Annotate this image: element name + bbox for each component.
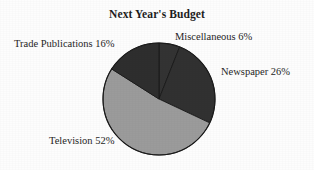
- slice-label-trade-publications: Trade Publications 16%: [14, 38, 115, 50]
- pie-chart-graphic: [0, 0, 314, 170]
- slice-label-newspaper: Newspaper 26%: [221, 66, 290, 78]
- slice-label-miscellaneous: Miscellaneous 6%: [175, 31, 252, 43]
- slice-label-television: Television 52%: [49, 135, 114, 147]
- pie-slices-group: [103, 43, 215, 155]
- pie-chart-figure: Next Year's Budget Miscellaneous 6% Trad…: [0, 0, 314, 170]
